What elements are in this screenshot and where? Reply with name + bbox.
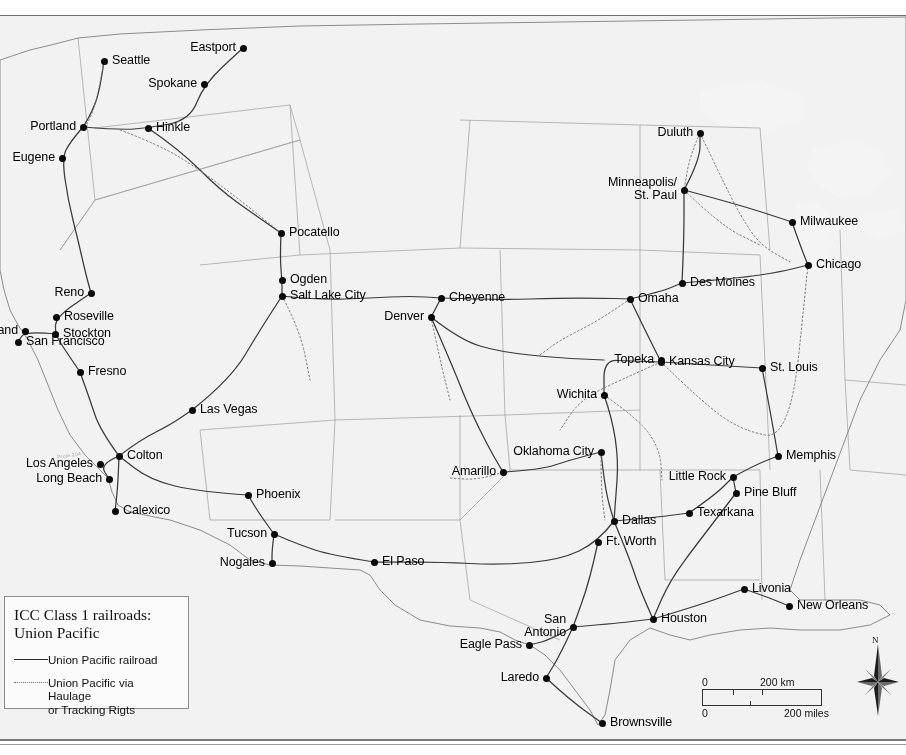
city-dot-icon (271, 531, 278, 538)
city-label: Ogden (290, 273, 327, 286)
city-dot-icon (80, 124, 87, 131)
city-dot-icon (681, 187, 688, 194)
city-label: Dallas (622, 514, 656, 527)
city-dot-icon (59, 155, 66, 162)
city-dot-icon (775, 453, 782, 460)
city-dot-icon (786, 603, 793, 610)
city-dot-icon (245, 492, 252, 499)
city-label: Ft. Worth (606, 535, 656, 548)
city-dot-icon (278, 230, 285, 237)
city-dot-icon (106, 476, 113, 483)
city-label: Denver (384, 310, 424, 323)
map-legend: ICC Class 1 railroads: Union Pacific Uni… (4, 596, 189, 709)
scale-bar: 0 200 km 0 200 miles (702, 676, 822, 720)
city-label: Hinkle (156, 121, 190, 134)
city-label: Colton (127, 449, 163, 462)
legend-entry-label: Union Pacific railroad (48, 653, 158, 667)
city-dot-icon (116, 453, 123, 460)
railroad-map: Proje 204 SeattleEastportSpokanePortland… (0, 0, 906, 755)
city-label: Kansas City (669, 355, 735, 368)
city-label: Amarillo (452, 465, 496, 478)
city-label: Memphis (786, 449, 836, 462)
city-dot-icon (789, 219, 796, 226)
city-dot-icon (599, 720, 606, 727)
city-dot-icon (145, 125, 152, 132)
city-dot-icon (805, 262, 812, 269)
map-frame-top-rule (0, 15, 906, 16)
city-label: Chicago (816, 258, 861, 271)
city-label: Fresno (88, 365, 126, 378)
city-label: San Antonio (524, 613, 566, 639)
city-label: Las Vegas (200, 403, 257, 416)
legend-entry-haulage: Union Pacific via Haulage or Tracking Ri… (14, 676, 179, 717)
city-label: Pine Bluff (744, 486, 796, 499)
city-label: Milwaukee (800, 215, 858, 228)
city-label: Eastport (190, 41, 236, 54)
dotted-line-icon (14, 682, 48, 683)
city-dot-icon (627, 296, 634, 303)
city-label: St. Louis (770, 361, 818, 374)
city-dot-icon (611, 518, 618, 525)
city-dot-icon (279, 293, 286, 300)
city-label: Tucson (227, 527, 267, 540)
city-label: New Orleans (797, 599, 868, 612)
city-dot-icon (697, 130, 704, 137)
city-label: Nogales (220, 556, 265, 569)
city-dot-icon (97, 461, 104, 468)
city-dot-icon (201, 81, 208, 88)
city-dot-icon (88, 290, 95, 297)
city-dot-icon (101, 58, 108, 65)
city-dot-icon (189, 407, 196, 414)
city-label: Eagle Pass (460, 638, 522, 651)
city-label: Salt Lake City (290, 289, 366, 302)
city-dot-icon (543, 675, 550, 682)
city-dot-icon (733, 490, 740, 497)
city-label: Seattle (112, 54, 150, 67)
city-label: Cheyenne (449, 291, 505, 304)
city-label: Long Beach (36, 472, 102, 485)
city-dot-icon (730, 474, 737, 481)
city-label: Texarkana (697, 506, 754, 519)
city-label: Reno (55, 286, 84, 299)
city-label: Des Moines (690, 276, 755, 289)
city-dot-icon (269, 560, 276, 567)
city-label: Phoenix (256, 488, 300, 501)
city-label: Pocatello (289, 226, 340, 239)
scale-km-labels: 0 200 km (702, 676, 822, 689)
map-frame-bottom-rule (0, 739, 906, 741)
compass-north-label: N (872, 635, 879, 645)
city-label: Wichita (557, 388, 597, 401)
city-label: Livonia (752, 582, 791, 595)
city-dot-icon (570, 624, 577, 631)
city-label: El Paso (382, 555, 424, 568)
map-frame-bottom-rule-thin (0, 744, 906, 745)
scale-km-zero: 0 (702, 676, 708, 688)
solid-line-icon (14, 659, 48, 660)
city-dot-icon (686, 510, 693, 517)
city-label: Roseville (64, 310, 114, 323)
city-dot-icon (428, 314, 435, 321)
city-label: Duluth (657, 126, 693, 139)
scale-bar-miles-track (702, 697, 822, 706)
scale-km-max: 200 km (760, 676, 794, 688)
city-label: Portland (30, 120, 76, 133)
city-dot-icon (526, 642, 533, 649)
city-dot-icon (598, 449, 605, 456)
city-dot-icon (741, 586, 748, 593)
city-label: Brownsville (610, 716, 672, 729)
city-dot-icon (15, 339, 22, 346)
city-label: Eugene (13, 151, 56, 164)
scale-miles-labels: 0 200 miles (702, 707, 822, 720)
city-dot-icon (53, 314, 60, 321)
city-dot-icon (650, 616, 657, 623)
city-label: Oklahoma City (513, 445, 594, 458)
city-label: Laredo (501, 671, 539, 684)
city-dot-icon (601, 392, 608, 399)
city-dot-icon (679, 280, 686, 287)
city-label: Calexico (123, 504, 170, 517)
city-label: Minneapolis/ St. Paul (608, 176, 677, 202)
city-label: Omaha (638, 292, 679, 305)
compass-star-icon (855, 636, 901, 720)
city-dot-icon (279, 277, 286, 284)
city-dot-icon (77, 369, 84, 376)
